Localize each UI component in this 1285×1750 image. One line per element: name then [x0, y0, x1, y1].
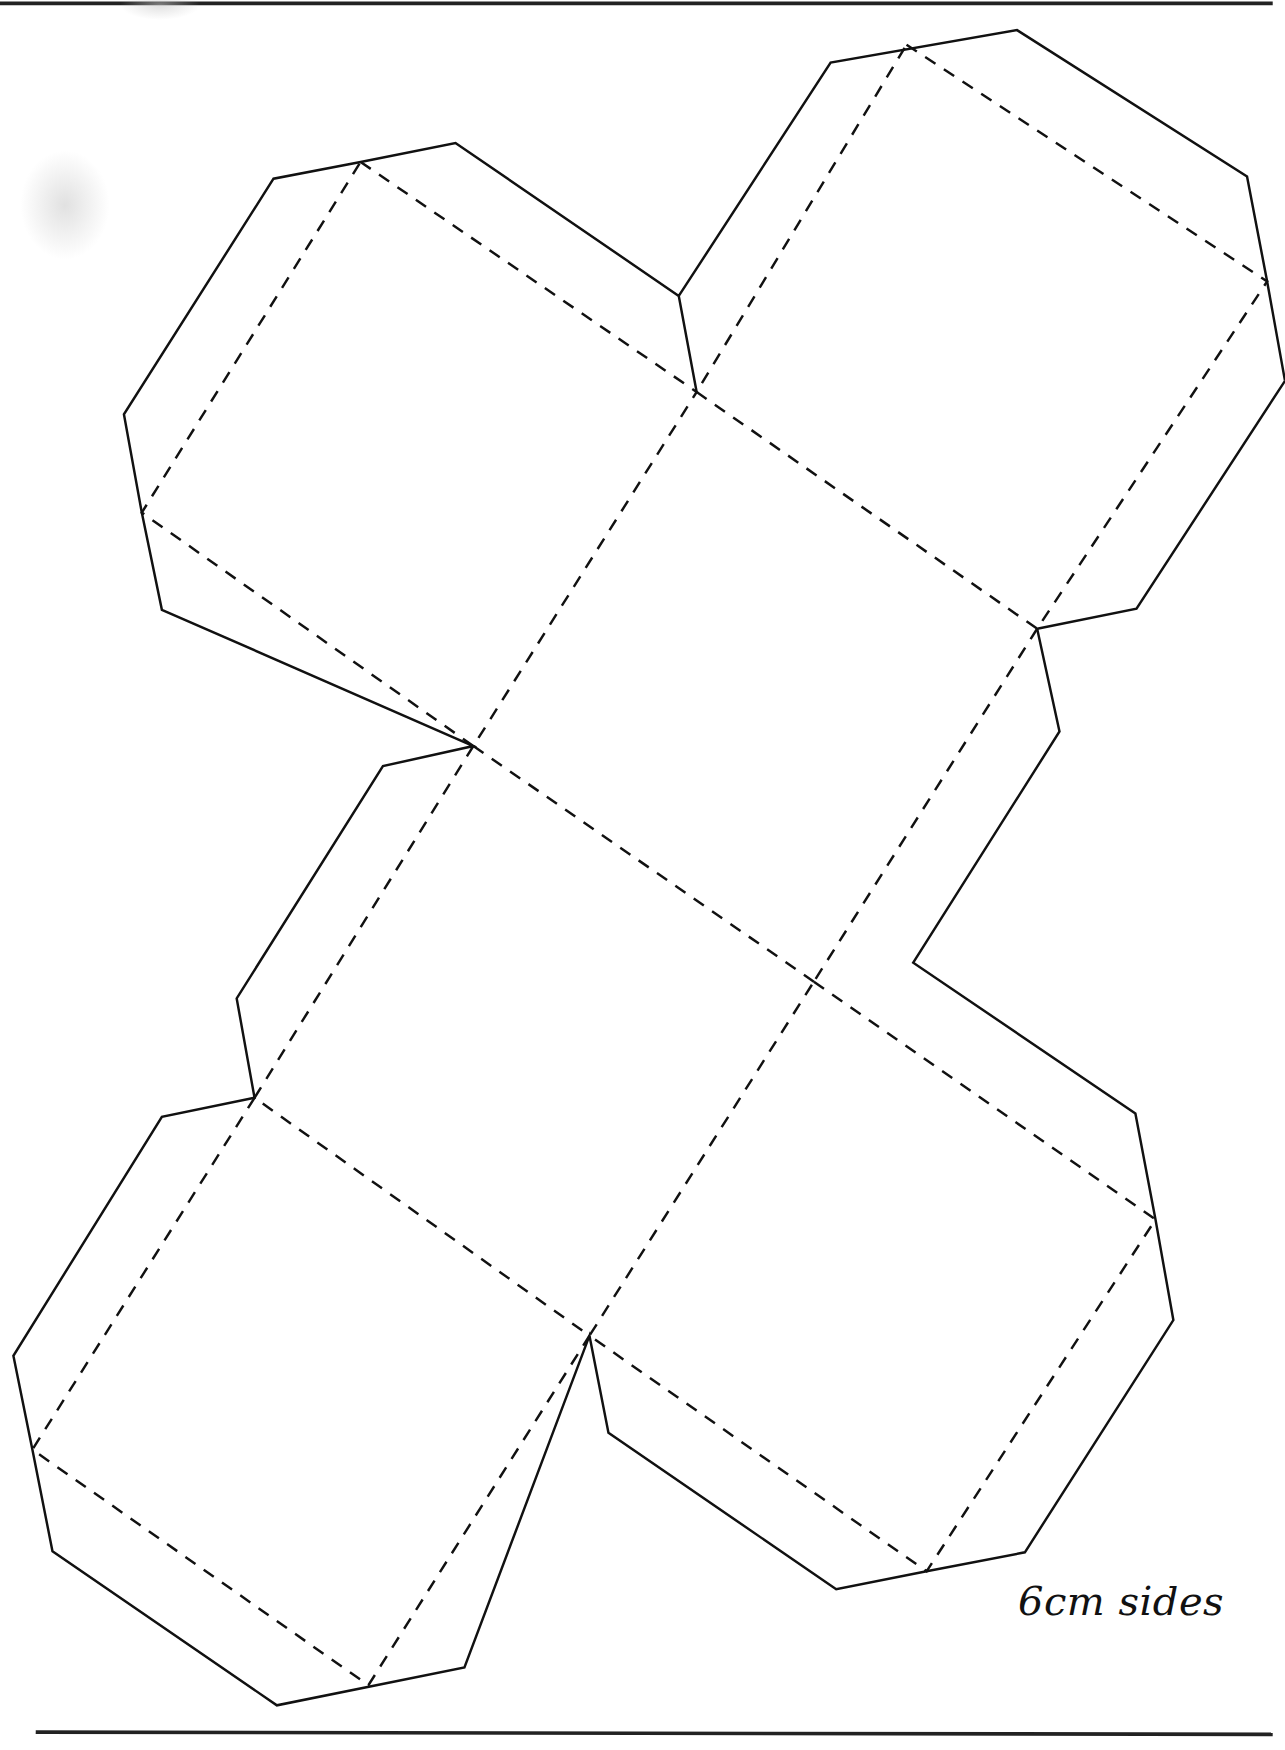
cube-net-drawing	[0, 0, 1285, 1750]
scan-smudge	[20, 150, 110, 260]
bottom-rule	[36, 1732, 1273, 1734]
fold-line	[32, 1098, 589, 1685]
cut-outline	[13, 30, 1285, 1705]
net-sheet: 6cm sides	[0, 0, 1285, 1750]
fold-line	[473, 746, 814, 982]
fold-line	[814, 629, 1037, 982]
size-label: 6cm sides	[1018, 1578, 1224, 1624]
fold-line	[142, 162, 697, 746]
fold-line	[255, 746, 814, 1336]
